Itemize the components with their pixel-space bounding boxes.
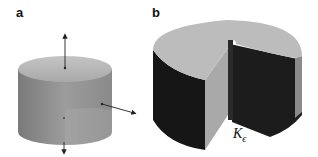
epsilon-subscript: ϵ <box>242 133 246 144</box>
cylinder-a <box>18 36 134 152</box>
panel-label-b: b <box>152 5 160 20</box>
cylinder-b-cutout <box>153 20 302 150</box>
k-symbol: K <box>233 126 242 141</box>
k-epsilon-label: Kϵ <box>233 126 246 144</box>
figure-canvas <box>0 0 318 157</box>
panel-label-a: a <box>16 5 23 20</box>
